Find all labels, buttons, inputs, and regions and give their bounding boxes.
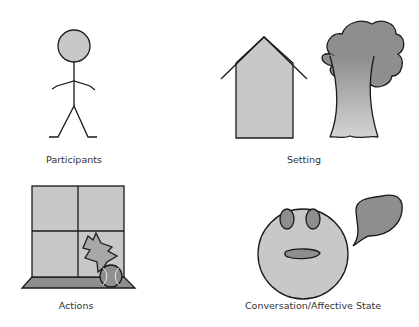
house-icon — [221, 37, 307, 138]
participants-label: Participants — [46, 154, 102, 165]
broken-window-icon — [22, 186, 135, 288]
speech-bubble-icon — [353, 195, 402, 246]
tree-icon — [322, 21, 404, 137]
setting-label: Setting — [287, 154, 321, 165]
conversation-label: Conversation/Affective State — [245, 300, 381, 311]
stick-figure-icon — [49, 30, 97, 137]
actions-label: Actions — [59, 300, 94, 311]
face-icon — [258, 209, 348, 299]
